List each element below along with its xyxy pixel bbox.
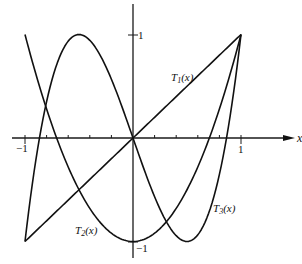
x-tick-label-pos1: 1 bbox=[238, 143, 244, 155]
y-tick-label-neg1: −1 bbox=[136, 242, 148, 254]
series-label-t3: T3(x) bbox=[213, 202, 236, 216]
series-label-t1: T1(x) bbox=[171, 71, 194, 85]
x-tick-label-neg1: −1 bbox=[16, 142, 28, 154]
x-axis-arrow-icon bbox=[283, 135, 295, 141]
series-label-t2: T2(x) bbox=[75, 224, 98, 238]
chebyshev-chart: x −1 1 1 −1 T1(x) T2(x) T3(x) bbox=[0, 0, 302, 264]
x-axis-label: x bbox=[296, 131, 302, 145]
y-tick-label-pos1: 1 bbox=[138, 29, 144, 41]
